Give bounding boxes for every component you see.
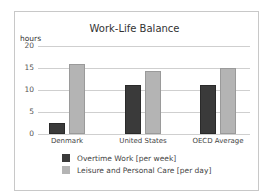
legend-label: Overtime Work [per week]	[77, 154, 176, 163]
gridline	[38, 134, 250, 135]
x-tick-label: Denmark	[32, 137, 102, 145]
bar	[145, 71, 161, 134]
x-tick-label: OECD Average	[183, 137, 253, 145]
y-tick-label: 5	[20, 107, 34, 116]
bar	[49, 123, 65, 134]
bar	[220, 68, 236, 134]
chart-title: Work-Life Balance	[0, 23, 269, 34]
legend-swatch	[62, 166, 70, 174]
bar	[200, 85, 216, 134]
legend-item: Overtime Work [per week]	[62, 154, 176, 163]
gridline	[38, 46, 250, 47]
bar	[125, 85, 141, 134]
y-tick-label: 20	[20, 41, 34, 50]
bar	[69, 64, 85, 134]
legend-swatch	[62, 154, 70, 162]
y-tick-label: 15	[20, 63, 34, 72]
legend-item: Leisure and Personal Care [per day]	[62, 166, 211, 175]
x-tick-label: United States	[108, 137, 178, 145]
y-tick-label: 10	[20, 85, 34, 94]
legend-label: Leisure and Personal Care [per day]	[77, 166, 211, 175]
